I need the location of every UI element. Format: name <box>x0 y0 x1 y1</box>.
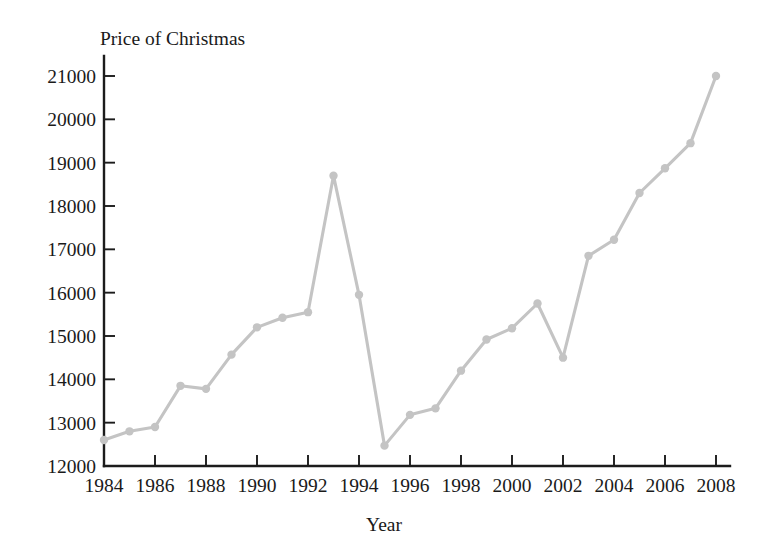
x-tick-label: 1984 <box>85 475 124 496</box>
data-point-marker <box>508 324 516 332</box>
data-point-marker <box>712 72 720 80</box>
data-point-marker <box>457 366 465 374</box>
data-point-marker <box>584 252 592 260</box>
x-axis-title: Year <box>366 514 402 535</box>
data-point-marker <box>125 427 133 435</box>
data-point-marker <box>661 164 669 172</box>
y-tick-label: 21000 <box>47 66 96 87</box>
x-tick-label: 1992 <box>289 475 328 496</box>
y-tick-label: 14000 <box>47 369 96 390</box>
data-point-marker <box>227 350 235 358</box>
data-point-marker <box>431 404 439 412</box>
y-tick-label: 19000 <box>47 153 96 174</box>
chart-container: Price of Christmas 120001300014000150001… <box>0 0 768 553</box>
y-tick-label: 12000 <box>47 456 96 477</box>
data-point-marker <box>100 436 108 444</box>
x-tick-label: 2002 <box>544 475 583 496</box>
chart-title: Price of Christmas <box>100 28 245 49</box>
data-point-marker <box>176 382 184 390</box>
data-point-marker <box>202 385 210 393</box>
y-tick-label: 18000 <box>47 196 96 217</box>
x-tick-label: 1990 <box>238 475 277 496</box>
data-point-marker <box>329 171 337 179</box>
data-point-marker <box>406 411 414 419</box>
line-chart: Price of Christmas 120001300014000150001… <box>0 0 768 553</box>
data-point-marker <box>610 236 618 244</box>
data-point-marker <box>635 189 643 197</box>
x-tick-label: 2006 <box>646 475 685 496</box>
x-tick-label: 2000 <box>493 475 532 496</box>
y-tick-label: 15000 <box>47 326 96 347</box>
data-point-marker <box>151 423 159 431</box>
data-point-marker <box>355 291 363 299</box>
data-point-marker <box>559 353 567 361</box>
x-tick-label: 1988 <box>187 475 226 496</box>
x-tick-label: 1998 <box>442 475 481 496</box>
data-point-marker <box>253 323 261 331</box>
data-point-marker <box>278 314 286 322</box>
data-point-marker <box>380 441 388 449</box>
chart-background <box>0 0 768 553</box>
x-tick-label: 2008 <box>697 475 736 496</box>
x-tick-label: 2004 <box>595 475 634 496</box>
x-tick-label: 1986 <box>136 475 175 496</box>
y-tick-label: 16000 <box>47 283 96 304</box>
y-tick-label: 13000 <box>47 413 96 434</box>
data-point-marker <box>533 299 541 307</box>
data-point-marker <box>304 308 312 316</box>
data-point-marker <box>686 139 694 147</box>
data-point-marker <box>482 335 490 343</box>
y-tick-label: 17000 <box>47 239 96 260</box>
x-tick-label: 1996 <box>391 475 430 496</box>
x-tick-label: 1994 <box>340 475 379 496</box>
y-tick-label: 20000 <box>47 109 96 130</box>
